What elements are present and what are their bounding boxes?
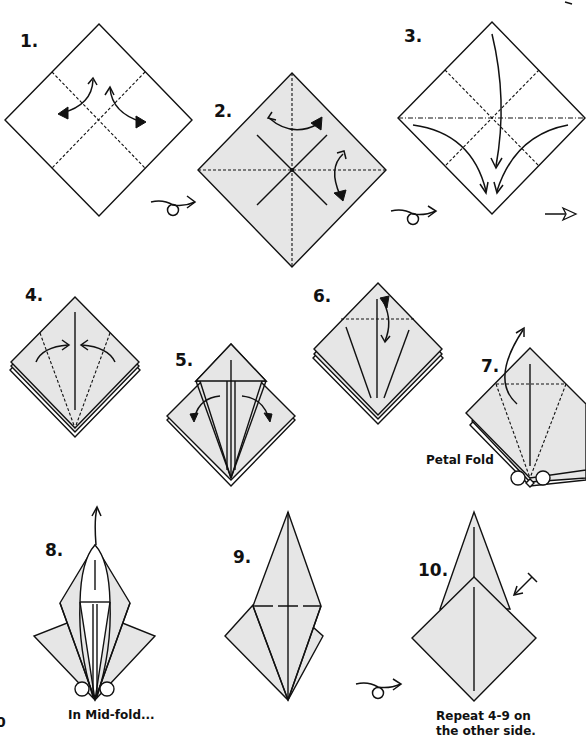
step-10: 10. Repeat 4-9 on the other side. xyxy=(412,512,537,737)
step-3: 3. xyxy=(398,22,585,214)
turn-over-icon xyxy=(356,679,401,699)
page-edge-mark xyxy=(565,2,572,4)
step-5: 5. xyxy=(167,344,295,486)
step-6-base xyxy=(314,283,442,415)
step-1-number: 1. xyxy=(20,31,38,51)
step-3-number: 3. xyxy=(404,26,422,46)
inside-reverse-marker xyxy=(536,471,550,485)
step-1: 1. xyxy=(5,24,192,216)
step-5-number: 5. xyxy=(175,350,193,370)
step-7-number: 7. xyxy=(481,356,499,376)
step-9: 9. xyxy=(225,512,323,700)
step-8-number: 8. xyxy=(45,540,63,560)
center-point xyxy=(290,168,294,172)
mid-fold-caption: In Mid-fold... xyxy=(68,708,155,722)
inside-reverse-marker xyxy=(75,682,89,696)
lift-arrow-icon xyxy=(92,507,101,545)
repeat-caption-line-1: Repeat 4-9 on xyxy=(436,709,531,723)
page-edge-fragment: 0 xyxy=(0,714,6,730)
step-6: 6. xyxy=(313,283,443,424)
turn-over-icon xyxy=(391,206,436,225)
origami-diagram-page: 1. 2. xyxy=(0,0,586,737)
petal-fold-caption: Petal Fold xyxy=(426,453,494,467)
step-4: 4. xyxy=(10,285,140,437)
step-7: 7. Petal Fold xyxy=(426,328,586,487)
step-8: 8. In Mid-fold... xyxy=(34,507,155,722)
step-2: 2. xyxy=(198,73,386,267)
step-10-number: 10. xyxy=(418,560,448,580)
repeat-behind-arrow-icon xyxy=(514,573,537,595)
diagram-canvas: 1. 2. xyxy=(0,0,586,737)
step-4-number: 4. xyxy=(25,285,43,305)
step-2-number: 2. xyxy=(214,101,232,121)
repeat-caption-line-2: the other side. xyxy=(436,724,536,737)
inside-reverse-marker xyxy=(100,682,114,696)
hollow-arrow-icon xyxy=(545,208,576,220)
step-9-number: 9. xyxy=(233,547,251,567)
step-6-number: 6. xyxy=(313,286,331,306)
inside-reverse-marker xyxy=(511,471,525,485)
turn-over-icon xyxy=(151,196,195,216)
